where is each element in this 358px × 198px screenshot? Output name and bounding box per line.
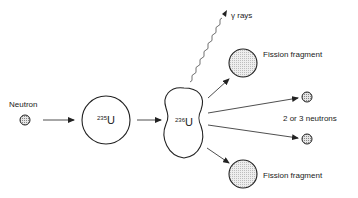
gamma-arrowhead xyxy=(222,10,227,17)
fission-diagram: Neutron 235U 236U γ rays Fission fragmen… xyxy=(0,0,358,198)
arrow-to-neutron-lower xyxy=(208,125,298,138)
arrow-to-bottom-fragment xyxy=(207,148,229,163)
fission-fragment-bottom xyxy=(229,160,257,188)
arrow-to-top-fragment xyxy=(208,79,229,98)
neutron-label: Neutron xyxy=(9,100,37,109)
gamma-ray-wave xyxy=(190,18,222,82)
fission-fragment-bottom-label: Fission fragment xyxy=(263,171,323,180)
neutrons-out-label: 2 or 3 neutrons xyxy=(283,114,337,123)
arrow-to-neutron-upper xyxy=(208,98,298,113)
fission-fragment-top xyxy=(229,49,257,77)
fission-fragment-top-label: Fission fragment xyxy=(263,50,323,59)
gamma-rays-label: γ rays xyxy=(231,11,252,20)
emitted-neutron-lower xyxy=(302,134,312,144)
emitted-neutron-upper xyxy=(302,92,312,102)
incoming-neutron xyxy=(20,115,30,125)
